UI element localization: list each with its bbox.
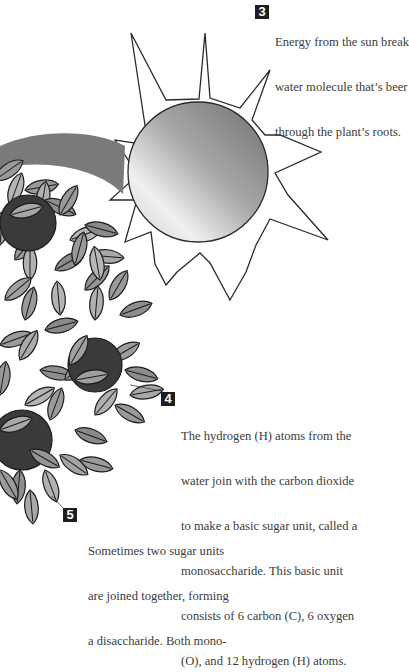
caption-line: water molecule that’s beer xyxy=(275,80,409,95)
caption-line: Energy from the sun break xyxy=(275,35,409,50)
step-number-badge: 3 xyxy=(255,5,269,19)
caption-line: water join with the carbon dioxide xyxy=(181,474,357,489)
caption-line: Sometimes two sugar units xyxy=(88,544,229,559)
caption-line: through the plant’s roots. xyxy=(275,125,409,140)
caption-line: are joined together, forming xyxy=(88,589,229,604)
caption-line: a disaccharide. Both mono- xyxy=(88,634,229,649)
step-number-badge: 5 xyxy=(63,508,77,522)
caption-line: The hydrogen (H) atoms from the xyxy=(181,429,357,444)
step-3-caption: Energy from the sun break water molecule… xyxy=(275,5,409,155)
step-5-caption: Sometimes two sugar units are joined tog… xyxy=(88,514,229,664)
sun-disc xyxy=(128,102,268,242)
step-number-badge: 4 xyxy=(161,392,175,406)
